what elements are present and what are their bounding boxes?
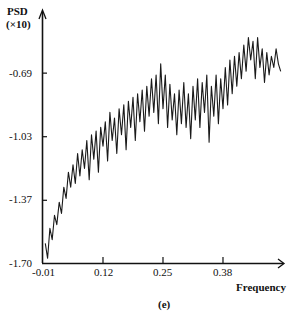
- y-tick-label: -1.70: [9, 257, 32, 269]
- y-tick-label: -1.37: [9, 193, 32, 205]
- y-tick-label: -0.69: [9, 67, 32, 79]
- x-tick-label: 0.38: [213, 266, 232, 278]
- y-axis-label: PSD: [7, 5, 28, 17]
- y-axis-scale: (×10): [6, 18, 31, 30]
- x-tick-label: 0.25: [153, 266, 172, 278]
- x-axis-label: Frequency: [236, 281, 286, 293]
- x-tick-label: -0.01: [32, 266, 55, 278]
- x-tick-label: 0.12: [94, 266, 113, 278]
- psd-line: [45, 38, 280, 259]
- panel-label: (e): [158, 298, 170, 310]
- x-ticks: [103, 257, 223, 263]
- y-tick-label: -1.03: [9, 130, 32, 142]
